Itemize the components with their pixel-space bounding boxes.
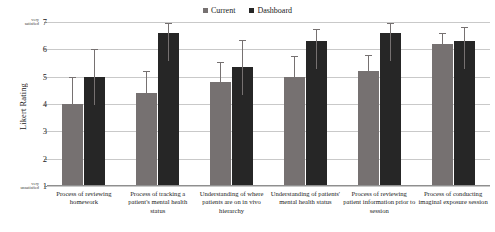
- chart-legend: Current Dashboard: [0, 4, 495, 17]
- error-bar: [442, 33, 443, 72]
- x-axis-label-2: Process of tracking a patient's mental h…: [121, 190, 195, 215]
- plot-area: [47, 22, 490, 186]
- bar-group-3-current: [210, 22, 231, 186]
- y-axis-low-annotation: veryunsatisfied: [20, 182, 39, 191]
- error-bar: [94, 49, 95, 104]
- error-bar: [316, 29, 317, 69]
- legend-entry-dashboard: Dashboard: [249, 6, 292, 15]
- y-tickmark-1: [44, 186, 47, 187]
- error-bar-cap: [143, 71, 150, 72]
- x-axis-label-3: Understanding of where patients are on i…: [195, 190, 269, 215]
- legend-label-current: Current: [211, 6, 235, 15]
- bar-group-6-current: [432, 22, 453, 186]
- x-axis-label-5: Process of reviewing patient information…: [342, 190, 416, 215]
- error-bar: [390, 23, 391, 61]
- error-bar-cap: [91, 49, 98, 50]
- error-bar-cap: [439, 33, 446, 34]
- bar-group-3-dashboard: [232, 22, 253, 186]
- bar-group-6-dashboard: [454, 22, 475, 186]
- error-bar-cap: [239, 40, 246, 41]
- error-bar: [72, 77, 73, 132]
- error-bar: [368, 55, 369, 99]
- error-bar-cap: [387, 23, 394, 24]
- x-axis-label-6: Process of conducting imaginal exposure …: [416, 190, 490, 207]
- error-bar-cap: [291, 56, 298, 57]
- x-axis-label-1: Process of reviewing homework: [47, 190, 121, 207]
- error-bar: [464, 27, 465, 69]
- gridline-1: [47, 186, 490, 187]
- error-bar-cap: [365, 55, 372, 56]
- bar-group-5-current: [358, 22, 379, 186]
- bar-group-1-dashboard: [84, 22, 105, 186]
- y-axis-high-annotation: verysatisfied: [25, 18, 39, 27]
- error-bar-cap: [313, 29, 320, 30]
- error-bar: [146, 71, 147, 121]
- x-axis-label-4: Understanding of patients' mental health…: [269, 190, 343, 207]
- bar-group-2-dashboard: [158, 22, 179, 186]
- legend-label-dashboard: Dashboard: [257, 6, 292, 15]
- legend-swatch-current: [203, 8, 208, 13]
- error-bar-cap: [461, 27, 468, 28]
- x-axis-line: [47, 185, 490, 186]
- bar-group-1-current: [62, 22, 83, 186]
- error-bar-cap: [69, 77, 76, 78]
- bar-group-5-dashboard: [380, 22, 401, 186]
- error-bar: [220, 62, 221, 111]
- error-bar: [242, 40, 243, 95]
- error-bar-cap: [217, 62, 224, 63]
- bar-group-4-dashboard: [306, 22, 327, 186]
- x-axis-label-layer: Process of reviewing homeworkProcess of …: [47, 190, 490, 232]
- bar-group-4-current: [284, 22, 305, 186]
- bar-group-2-current: [136, 22, 157, 186]
- error-bar-cap: [165, 23, 172, 24]
- likert-rating-bar-chart: Current Dashboard Likert Rating 1234567v…: [0, 0, 495, 232]
- error-bar: [294, 56, 295, 105]
- error-bar: [168, 23, 169, 61]
- legend-swatch-dashboard: [249, 8, 254, 13]
- bars-layer: [47, 22, 490, 186]
- legend-entry-current: Current: [203, 6, 235, 15]
